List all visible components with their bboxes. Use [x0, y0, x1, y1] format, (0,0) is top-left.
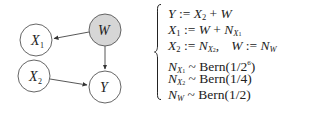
svg-text:2: 2	[38, 77, 42, 86]
node-x2: X 2	[18, 60, 50, 92]
equation-x2-w: X2 := NX2,W := NW	[168, 39, 277, 57]
eq-plus: +	[210, 22, 224, 37]
eq-assign-op: :=	[242, 38, 260, 53]
causal-graph: X 1 W X 2 Y	[0, 0, 150, 113]
eq-lhs: N	[168, 87, 177, 102]
node-w: W	[89, 14, 121, 46]
eq-term: N	[224, 22, 233, 37]
eq-lhs: N	[168, 71, 177, 86]
eq-assign-op: :=	[176, 6, 194, 21]
eq-param: (1/2)	[224, 87, 250, 102]
eq-lhs: X	[168, 22, 176, 37]
eq-distribution: Bern	[198, 87, 224, 102]
eq-tilde: ~	[184, 87, 198, 102]
eq-plus: +	[206, 6, 220, 21]
eq-assign-op: :=	[181, 22, 199, 37]
eq-assign-op: :=	[181, 38, 199, 53]
node-x1: X 1	[20, 24, 52, 56]
eq-lhs: Y	[168, 6, 176, 21]
svg-text:1: 1	[40, 41, 44, 50]
eq-subscript: W	[270, 44, 277, 54]
node-y: Y	[89, 71, 121, 103]
eq-distribution: Bern	[199, 71, 225, 86]
eq-term: N	[261, 38, 270, 53]
eq-term: N	[199, 38, 208, 53]
svg-text:X: X	[30, 33, 40, 48]
eq-tilde: ~	[185, 71, 199, 86]
eq-term: X	[194, 6, 202, 21]
eq-lhs: X	[168, 38, 176, 53]
eq-term: W	[199, 22, 210, 37]
svg-text:X: X	[28, 69, 38, 84]
eq-param: (1/4)	[226, 71, 252, 86]
svg-text:W: W	[98, 23, 111, 38]
eq-term: W	[221, 6, 232, 21]
equation-noise-w: NW ~ Bern(1/2)	[168, 88, 251, 105]
eq-lhs: W	[231, 38, 242, 53]
eq-separator: ,	[216, 38, 219, 53]
left-brace	[154, 4, 162, 100]
edge-x2-to-y	[50, 79, 87, 85]
eq-subsubscript: 1	[238, 31, 241, 37]
edge-w-to-x1	[54, 32, 89, 39]
